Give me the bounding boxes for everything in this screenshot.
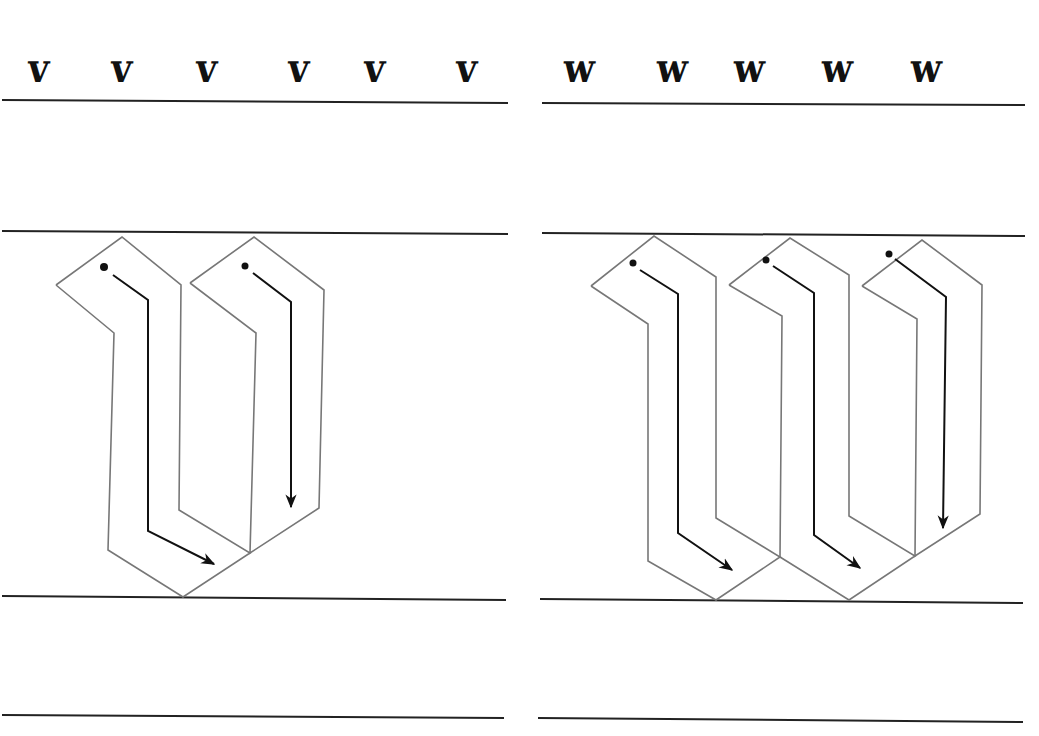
- ruling-line: [540, 599, 1023, 603]
- v-stroke1-outline: [56, 237, 250, 597]
- v-stroke2-outline: [190, 237, 324, 553]
- stroke-start-dot: [886, 251, 893, 258]
- ruling-line: [2, 596, 506, 600]
- letter-w-outline: [591, 236, 982, 600]
- w-stroke2-outline: [729, 238, 915, 600]
- ruling-line: [2, 231, 508, 234]
- stroke-start-dot: [100, 263, 108, 271]
- v-stroke1-arrow: [113, 275, 214, 564]
- letter-w-stroke-paths: [630, 251, 947, 571]
- w-stroke1-arrow: [640, 270, 732, 570]
- w-stroke2-arrow: [773, 266, 860, 568]
- stroke-start-dot: [763, 257, 770, 264]
- ruling-line: [542, 103, 1025, 105]
- letter-v-stroke-paths: [100, 263, 291, 565]
- letter-v-outline: [56, 237, 324, 597]
- ruling-line: [2, 715, 504, 718]
- ruling-line: [2, 100, 508, 103]
- stroke-guide-drawing: [0, 0, 1039, 736]
- ruling-line: [538, 718, 1023, 722]
- w-stroke3-arrow: [895, 259, 946, 528]
- w-stroke3-outline: [862, 240, 982, 556]
- ruling-line: [542, 233, 1025, 236]
- stroke-start-dot: [630, 260, 637, 267]
- ruling-lines-left: [2, 100, 508, 718]
- w-stroke1-outline: [591, 236, 780, 600]
- v-stroke2-arrow: [253, 273, 291, 507]
- stroke-start-dot: [242, 263, 249, 270]
